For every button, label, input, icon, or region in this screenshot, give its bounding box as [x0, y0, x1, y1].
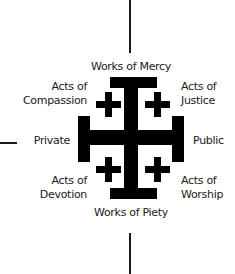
label-line-2: Devotion — [40, 188, 87, 202]
label-acts-of-justice: Acts of Justice — [181, 80, 216, 108]
label-acts-of-compassion: Acts of Compassion — [23, 80, 87, 108]
label-public: Public — [193, 134, 224, 148]
small-cross-icon-top-left — [96, 92, 121, 117]
label-line-1: Acts of — [181, 174, 223, 188]
label-works-of-mercy: Works of Mercy — [91, 60, 171, 74]
left-axis-line — [0, 142, 17, 144]
label-line-2: Compassion — [23, 94, 87, 108]
label-acts-of-devotion: Acts of Devotion — [40, 174, 87, 202]
label-private: Private — [34, 134, 70, 148]
label-line-2: Worship — [181, 188, 223, 202]
bottom-axis-line — [129, 233, 131, 274]
label-works-of-piety: Works of Piety — [94, 206, 168, 220]
small-cross-icon-bottom-right — [145, 157, 170, 182]
label-line-1: Acts of — [23, 80, 87, 94]
jerusalem-cross-diagram: Works of Mercy Works of Piety Private Pu… — [0, 0, 235, 274]
jerusalem-cross-icon — [78, 77, 184, 199]
label-line-1: Acts of — [40, 174, 87, 188]
small-cross-icon-bottom-left — [96, 157, 121, 182]
label-line-1: Acts of — [181, 80, 216, 94]
small-cross-icon-top-right — [145, 92, 170, 117]
label-acts-of-worship: Acts of Worship — [181, 174, 223, 202]
top-axis-line — [129, 0, 131, 53]
label-line-2: Justice — [181, 94, 216, 108]
